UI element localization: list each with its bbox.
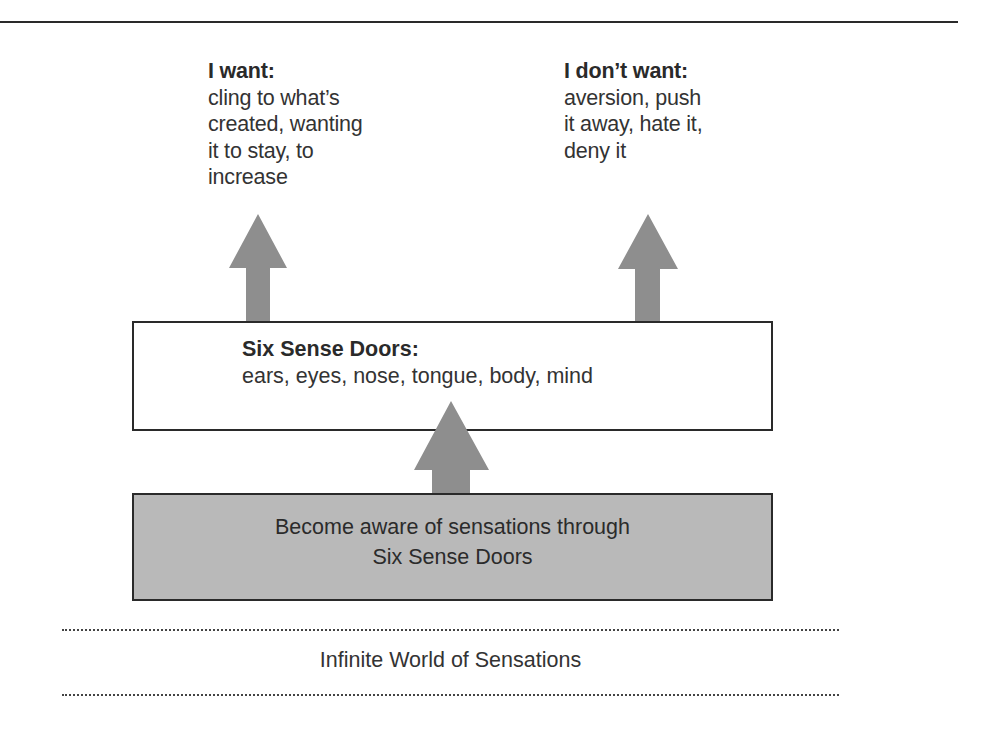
arrow-up-icon bbox=[228, 214, 288, 322]
sense-doors-heading: Six Sense Doors: bbox=[242, 336, 593, 363]
awareness-box: Become aware of sensations through Six S… bbox=[132, 493, 773, 601]
sense-doors-text: Six Sense Doors: ears, eyes, nose, tongu… bbox=[242, 336, 593, 390]
awareness-text: Become aware of sensations through Six S… bbox=[134, 512, 771, 572]
want-line: created, wanting bbox=[208, 111, 408, 138]
dont-want-line: deny it bbox=[564, 138, 754, 165]
world-label: Infinite World of Sensations bbox=[62, 648, 839, 673]
awareness-line: Six Sense Doors bbox=[134, 542, 771, 572]
dont-want-line: aversion, push bbox=[564, 85, 754, 112]
arrow-up-icon bbox=[414, 401, 490, 494]
arrow-up-icon bbox=[617, 214, 679, 322]
dont-want-heading: I don’t want: bbox=[564, 58, 754, 85]
dont-want-line: it away, hate it, bbox=[564, 111, 754, 138]
want-heading: I want: bbox=[208, 58, 408, 85]
want-line: increase bbox=[208, 164, 408, 191]
awareness-line: Become aware of sensations through bbox=[134, 512, 771, 542]
want-line: cling to what’s bbox=[208, 85, 408, 112]
dont-want-block: I don’t want: aversion, push it away, ha… bbox=[564, 58, 754, 164]
want-block: I want: cling to what’s created, wanting… bbox=[208, 58, 408, 191]
dotted-divider-top bbox=[62, 629, 839, 631]
top-rule bbox=[0, 21, 958, 23]
dotted-divider-bottom bbox=[62, 694, 839, 696]
sense-doors-list: ears, eyes, nose, tongue, body, mind bbox=[242, 363, 593, 390]
want-line: it to stay, to bbox=[208, 138, 408, 165]
